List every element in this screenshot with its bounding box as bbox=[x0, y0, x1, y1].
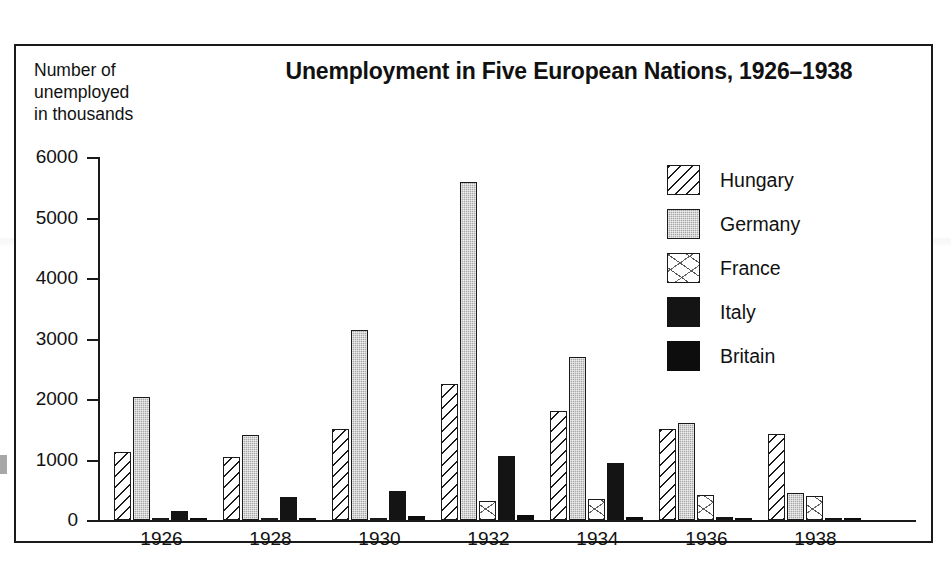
gray-fill-swatch bbox=[667, 209, 700, 239]
bar-germany-1932 bbox=[460, 182, 477, 520]
legend-item-label: Italy bbox=[720, 301, 756, 324]
stipple-swatch bbox=[667, 253, 700, 283]
bar-germany-1936 bbox=[678, 423, 695, 520]
bar-britain-1930 bbox=[408, 516, 425, 520]
bar-france-1928 bbox=[261, 518, 278, 520]
legend-item-italy: Italy bbox=[667, 290, 897, 334]
bar-germany-1938 bbox=[787, 493, 804, 520]
bar-france-1930 bbox=[370, 518, 387, 520]
legend-item-france: France bbox=[667, 246, 897, 290]
bar-group-1934 bbox=[550, 157, 645, 520]
bar-britain-1934 bbox=[626, 517, 643, 520]
chart-title: Unemployment in Five European Nations, 1… bbox=[216, 58, 922, 85]
scan-edge-artifact bbox=[0, 455, 7, 474]
bar-italy-1938 bbox=[825, 518, 842, 520]
bar-italy-1932 bbox=[498, 456, 515, 520]
bar-france-1936 bbox=[697, 495, 714, 520]
bar-germany-1930 bbox=[351, 330, 368, 520]
solid-black-swatch bbox=[667, 297, 700, 327]
legend-item-hungary: Hungary bbox=[667, 158, 897, 202]
bar-britain-1938 bbox=[844, 518, 861, 520]
bar-italy-1934 bbox=[607, 463, 624, 520]
legend-item-label: France bbox=[720, 257, 781, 280]
legend-item-label: Germany bbox=[720, 213, 800, 236]
y-axis-tick: 6000 bbox=[87, 157, 100, 159]
y-axis-tick-label: 5000 bbox=[8, 207, 78, 229]
bar-group-1926 bbox=[114, 157, 209, 520]
bar-group-1930 bbox=[332, 157, 427, 520]
y-axis-tick: 3000 bbox=[87, 339, 100, 341]
y-axis-tick-label: 2000 bbox=[8, 388, 78, 410]
legend-item-germany: Germany bbox=[667, 202, 897, 246]
bar-france-1932 bbox=[479, 501, 496, 520]
y-axis-tick: 0 bbox=[87, 520, 100, 522]
y-axis-tick-label: 4000 bbox=[8, 267, 78, 289]
y-axis-tick: 5000 bbox=[87, 218, 100, 220]
diagonal-hatch-swatch bbox=[667, 165, 700, 195]
x-axis-line bbox=[98, 520, 916, 522]
bar-italy-1928 bbox=[280, 497, 297, 520]
bar-hungary-1928 bbox=[223, 457, 240, 520]
legend-item-label: Britain bbox=[720, 345, 775, 368]
bar-hungary-1926 bbox=[114, 452, 131, 520]
y-axis-tick: 1000 bbox=[87, 460, 100, 462]
x-axis-tick-label-1938: 1938 bbox=[746, 528, 885, 550]
bar-italy-1926 bbox=[171, 511, 188, 520]
bar-hungary-1934 bbox=[550, 411, 567, 520]
y-axis-caption: Number of unemployed in thousands bbox=[34, 59, 133, 125]
y-axis-tick: 4000 bbox=[87, 278, 100, 280]
y-axis-tick-label: 3000 bbox=[8, 328, 78, 350]
y-axis-tick-label: 0 bbox=[8, 509, 78, 531]
bar-hungary-1932 bbox=[441, 384, 458, 520]
legend-item-britain: Britain bbox=[667, 334, 897, 378]
bar-france-1926 bbox=[152, 518, 169, 520]
chart-figure: Number of unemployed in thousands Unempl… bbox=[14, 44, 933, 543]
bar-france-1934 bbox=[588, 499, 605, 520]
bar-hungary-1938 bbox=[768, 434, 785, 521]
y-axis-tick-label: 1000 bbox=[8, 449, 78, 471]
bar-group-1932 bbox=[441, 157, 536, 520]
bar-britain-1926 bbox=[190, 518, 207, 520]
bar-group-1928 bbox=[223, 157, 318, 520]
y-axis-tick-label: 6000 bbox=[8, 146, 78, 168]
legend-item-label: Hungary bbox=[720, 169, 794, 192]
y-axis-tick: 2000 bbox=[87, 399, 100, 401]
bar-germany-1928 bbox=[242, 435, 259, 520]
chart-legend: HungaryGermanyFranceItalyBritain bbox=[667, 158, 897, 378]
bar-britain-1936 bbox=[735, 518, 752, 520]
bar-germany-1934 bbox=[569, 357, 586, 520]
bar-italy-1936 bbox=[716, 517, 733, 520]
bar-italy-1930 bbox=[389, 491, 406, 520]
bar-germany-1926 bbox=[133, 397, 150, 520]
bar-france-1938 bbox=[806, 496, 823, 520]
solid-black-swatch bbox=[667, 341, 700, 371]
bar-britain-1932 bbox=[517, 515, 534, 520]
bar-britain-1928 bbox=[299, 518, 316, 520]
bar-hungary-1930 bbox=[332, 429, 349, 520]
bar-hungary-1936 bbox=[659, 429, 676, 520]
